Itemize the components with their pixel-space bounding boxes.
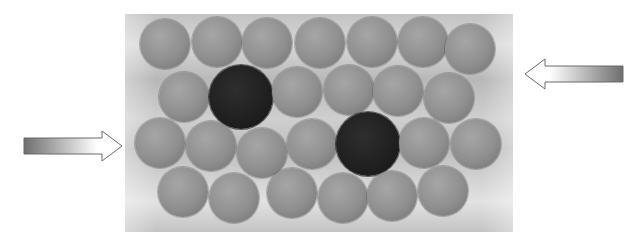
sphere [242, 18, 292, 68]
dark-sphere [336, 112, 400, 176]
sphere [272, 67, 322, 117]
sphere [424, 73, 474, 123]
sphere [295, 18, 345, 68]
sphere [158, 167, 208, 217]
sphere [287, 119, 337, 169]
sphere [192, 17, 242, 67]
sphere [398, 17, 448, 67]
dark-sphere [209, 65, 273, 129]
sphere [267, 168, 317, 218]
sphere [367, 171, 417, 221]
sphere [159, 72, 209, 122]
sphere [451, 119, 501, 169]
sphere [399, 118, 449, 168]
sphere [135, 118, 185, 168]
sphere [324, 65, 374, 115]
sphere [186, 121, 236, 171]
sphere [347, 17, 397, 67]
right-arrow-icon [22, 128, 126, 164]
sphere [140, 19, 190, 69]
sphere [209, 173, 259, 223]
sphere [445, 24, 495, 74]
sphere-container [125, 14, 513, 232]
sphere [373, 66, 423, 116]
sphere [318, 173, 368, 223]
sphere [418, 166, 468, 216]
left-arrow-icon [521, 56, 625, 92]
